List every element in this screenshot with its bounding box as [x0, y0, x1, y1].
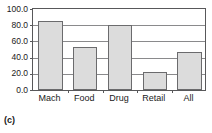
x-tick-label: Retail: [136, 93, 171, 104]
y-axis: 100.080.060.040.020.00.0: [0, 0, 30, 133]
y-tick-label: 20.0: [11, 69, 28, 78]
y-tick-mark: [30, 90, 33, 91]
y-tick-label: 100.0: [7, 5, 28, 14]
bar-mach: [38, 21, 62, 90]
y-tick-mark: [30, 9, 33, 10]
x-axis: MachFoodDrugRetailAll: [32, 93, 206, 107]
y-tick-label: 80.0: [11, 21, 28, 30]
y-tick-label: 60.0: [11, 37, 28, 46]
x-tick-label: All: [171, 93, 206, 104]
bar-food: [73, 47, 97, 90]
x-tick-label: Drug: [102, 93, 137, 104]
bar-retail: [143, 72, 167, 90]
bar-drug: [108, 25, 132, 90]
bar-all: [177, 52, 201, 90]
x-tick-label: Mach: [32, 93, 67, 104]
y-tick-label: 40.0: [11, 53, 28, 62]
plot-area: [32, 8, 206, 91]
bar-series: [33, 9, 205, 90]
y-tick-mark: [30, 41, 33, 42]
y-tick-label: 0.0: [16, 86, 28, 95]
x-tick-label: Food: [67, 93, 102, 104]
y-tick-mark: [30, 74, 33, 75]
figure-caption: (c): [4, 115, 15, 126]
y-tick-mark: [30, 25, 33, 26]
y-tick-mark: [30, 58, 33, 59]
figure-panel: 100.080.060.040.020.00.0 MachFoodDrugRet…: [0, 0, 212, 133]
